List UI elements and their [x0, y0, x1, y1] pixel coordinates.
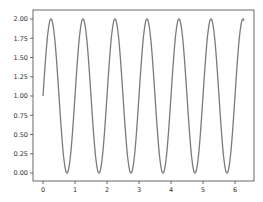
y-tick-label: 0.00 [14, 169, 28, 177]
x-tick-label: 5 [201, 186, 205, 194]
y-tick-label: 1.25 [14, 73, 28, 81]
y-tick-label: 0.25 [14, 150, 28, 158]
line-chart: 0123456 0.000.250.500.751.001.251.501.75… [0, 0, 263, 202]
y-tick-label: 2.00 [14, 15, 28, 23]
y-tick-label: 1.50 [14, 54, 28, 62]
y-tick-label: 0.75 [14, 112, 28, 120]
y-tick-label: 1.00 [14, 92, 28, 100]
y-tick-label: 0.50 [14, 131, 28, 139]
y-tick-label: 1.75 [14, 35, 28, 43]
x-tick-label: 1 [73, 186, 77, 194]
x-tick-label: 2 [105, 186, 109, 194]
x-tick-label: 4 [169, 186, 173, 194]
x-tick-label: 6 [233, 186, 237, 194]
x-tick-label: 3 [137, 186, 141, 194]
x-tick-label: 0 [41, 186, 45, 194]
